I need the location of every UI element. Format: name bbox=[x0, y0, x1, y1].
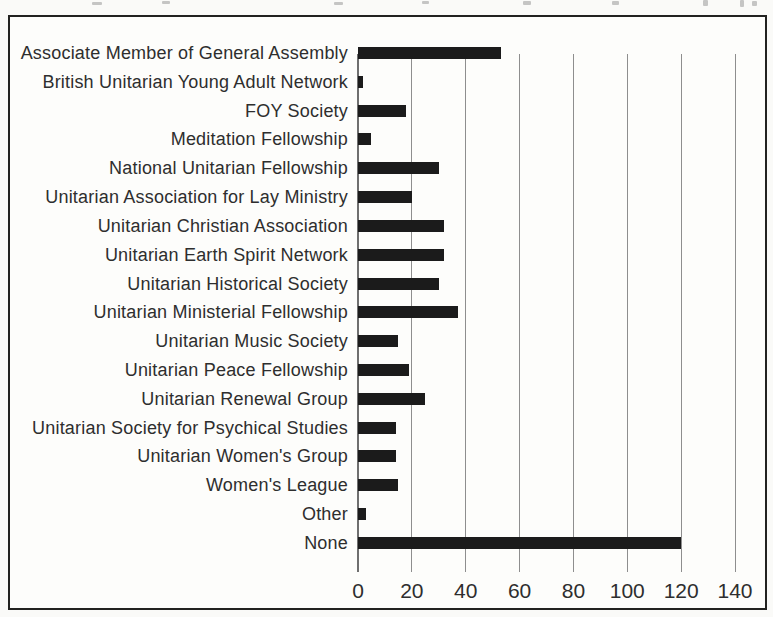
scan-artifact bbox=[422, 1, 429, 4]
category-label: Women's League bbox=[206, 474, 348, 496]
category-label: Unitarian Music Society bbox=[155, 330, 348, 352]
bar bbox=[358, 422, 396, 434]
bar bbox=[358, 249, 444, 261]
category-label: Unitarian Ministerial Fellowship bbox=[94, 301, 349, 323]
category-label: British Unitarian Young Adult Network bbox=[42, 71, 348, 93]
bar bbox=[358, 364, 409, 376]
category-label: Unitarian Women's Group bbox=[137, 445, 348, 467]
scan-artifact bbox=[612, 1, 619, 5]
scan-artifact bbox=[752, 1, 757, 6]
gridline bbox=[735, 54, 736, 572]
category-label: Unitarian Society for Psychical Studies bbox=[32, 417, 348, 439]
category-label: FOY Society bbox=[245, 100, 348, 122]
bar bbox=[358, 47, 501, 59]
bar bbox=[358, 220, 444, 232]
gridline bbox=[627, 54, 628, 572]
bar bbox=[358, 450, 396, 462]
category-label: Unitarian Peace Fellowship bbox=[125, 359, 348, 381]
scan-artifact bbox=[740, 0, 744, 7]
bar bbox=[358, 133, 371, 145]
bar bbox=[358, 105, 406, 117]
gridline bbox=[465, 54, 466, 572]
bar bbox=[358, 191, 412, 203]
scan-artifact bbox=[92, 2, 102, 5]
category-label: None bbox=[304, 532, 348, 554]
category-label: Unitarian Christian Association bbox=[98, 215, 348, 237]
bar bbox=[358, 508, 366, 520]
category-label: Associate Member of General Assembly bbox=[21, 42, 348, 64]
category-label: Unitarian Historical Society bbox=[127, 273, 348, 295]
bar bbox=[358, 479, 398, 491]
category-label: Meditation Fellowship bbox=[171, 128, 348, 150]
gridline bbox=[519, 54, 520, 572]
bar bbox=[358, 162, 439, 174]
bar bbox=[358, 278, 439, 290]
bar bbox=[358, 306, 458, 318]
scan-artifact bbox=[703, 0, 708, 6]
gridline bbox=[681, 54, 682, 572]
scan-artifact bbox=[162, 1, 170, 4]
category-label: Other bbox=[302, 503, 348, 525]
category-label: National Unitarian Fellowship bbox=[109, 157, 348, 179]
category-label: Unitarian Earth Spirit Network bbox=[105, 244, 348, 266]
bar bbox=[358, 393, 425, 405]
category-label: Unitarian Renewal Group bbox=[141, 388, 348, 410]
chart-frame: Associate Member of General AssemblyBrit… bbox=[8, 15, 767, 610]
category-label: Unitarian Association for Lay Ministry bbox=[45, 186, 348, 208]
bar bbox=[358, 76, 363, 88]
scanned-page: Associate Member of General AssemblyBrit… bbox=[0, 0, 773, 617]
bar bbox=[358, 335, 398, 347]
gridline bbox=[573, 54, 574, 572]
scan-artifact bbox=[334, 2, 343, 5]
scan-artifact bbox=[523, 1, 531, 5]
x-tick-label: 140 bbox=[703, 579, 767, 603]
bar bbox=[358, 537, 681, 549]
